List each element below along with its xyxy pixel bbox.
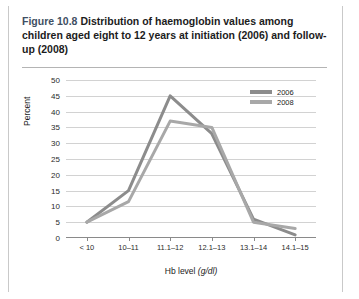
figure-title: Figure 10.8 Distribution of haemoglobin … (22, 14, 327, 56)
y-axis-tick-label: 50 (51, 76, 60, 85)
y-axis-label: Percent (22, 97, 32, 126)
x-axis-tick (295, 238, 296, 241)
title-divider (22, 67, 327, 68)
x-axis-tick (170, 238, 171, 241)
y-axis-tick-label: 0 (56, 234, 60, 243)
legend-label-2008: 2008 (277, 98, 294, 107)
legend-label-2006: 2006 (277, 88, 294, 97)
figure-card: Figure 10.8 Distribution of haemoglobin … (8, 6, 343, 292)
figure-number: Figure 10.8 (22, 15, 77, 27)
x-axis-label-units: (g/dl) (198, 266, 217, 276)
x-axis-tick-label: < 10 (79, 243, 94, 252)
x-axis-tick-label: 11.1–12 (157, 243, 184, 252)
x-axis-tick-label: 14.1–15 (282, 243, 309, 252)
y-axis-tick-label: 25 (51, 155, 60, 164)
y-axis-tick-label: 15 (51, 186, 60, 195)
legend-item-2008: 2008 (250, 97, 294, 107)
legend-item-2006: 2006 (250, 87, 294, 97)
y-axis-tick-label: 45 (51, 91, 60, 100)
x-axis-tick (87, 238, 88, 241)
x-axis-tick-label: 10–11 (118, 243, 138, 252)
y-axis-tick-label: 10 (51, 202, 60, 211)
x-axis-label-text: Hb level (165, 266, 196, 276)
chart-plot-area: Percent 05101520253035404550 < 1010–1111… (22, 74, 331, 288)
x-axis-tick (129, 238, 130, 241)
y-axis-tick-label: 20 (51, 170, 60, 179)
y-axis-tick-label: 35 (51, 123, 60, 132)
x-axis-label: Hb level (g/dl) (66, 266, 316, 276)
x-axis-tick (254, 238, 255, 241)
y-axis-tick-label: 40 (51, 107, 60, 116)
series-line-2008 (87, 121, 295, 228)
y-axis-tick-label: 5 (56, 218, 60, 227)
series-line-2006 (87, 96, 295, 235)
chart-legend: 20062008 (250, 87, 294, 107)
x-axis-tick-label: 13.1–14 (240, 243, 267, 252)
x-axis-tick (212, 238, 213, 241)
y-axis-tick-label: 30 (51, 139, 60, 148)
legend-swatch-2006 (250, 90, 272, 94)
legend-swatch-2008 (250, 100, 272, 104)
x-axis-tick-label: 12.1–13 (198, 243, 225, 252)
